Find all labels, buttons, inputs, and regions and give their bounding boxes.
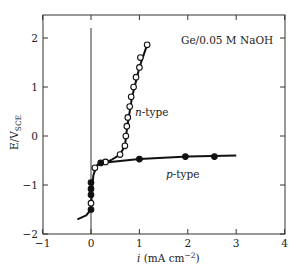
n-type-point	[127, 104, 133, 110]
n-type-point	[88, 200, 94, 206]
n-type-point	[117, 152, 123, 158]
n-type-point	[122, 143, 128, 149]
n-type-point	[144, 42, 150, 48]
x-tick-label: 3	[233, 237, 240, 249]
p-type-point	[183, 154, 189, 160]
plot-frame	[43, 15, 285, 234]
annotation-label: Ge/0.05 M NaOH	[181, 34, 273, 46]
p-type-point	[88, 186, 94, 192]
n-type-point	[133, 74, 139, 80]
p-type-point	[88, 180, 94, 186]
p-type-point	[212, 154, 218, 160]
plot-border	[43, 15, 285, 234]
p-type-point	[98, 160, 104, 166]
fit-curves	[77, 45, 236, 219]
polarization-chart: −101234−2−1012 Ge/0.05 M NaOH n-type p-t…	[0, 0, 300, 279]
n-type-point	[124, 123, 130, 129]
y-tick-label: −2	[23, 228, 38, 240]
x-axis-label: i (mA cm−2)	[137, 251, 200, 264]
y-axis-label: E/VSCE	[8, 115, 23, 150]
n-type-point	[125, 115, 131, 121]
data-points	[88, 42, 217, 212]
p-type-point	[137, 156, 143, 162]
n-type-point	[137, 65, 143, 71]
n-type-point	[128, 94, 134, 100]
x-tick-label: 2	[184, 237, 191, 249]
n-type-point	[92, 165, 98, 171]
y-tick-label: 0	[31, 130, 38, 142]
y-tick-label: 1	[31, 81, 38, 93]
x-tick-label: 0	[88, 237, 95, 249]
p-type-point	[88, 207, 94, 213]
x-tick-label: 4	[281, 237, 288, 249]
n-type-label: n-type	[135, 106, 168, 118]
axis-ticks: −101234−2−1012	[23, 15, 289, 249]
n-type-point	[138, 55, 144, 61]
x-tick-label: 1	[136, 237, 143, 249]
p-type-label: p-type	[166, 168, 199, 180]
y-tick-label: −1	[23, 179, 38, 191]
y-tick-label: 2	[31, 32, 38, 44]
p-type-point	[88, 192, 94, 198]
n-type-point	[123, 133, 129, 139]
n-type-point	[131, 84, 137, 90]
